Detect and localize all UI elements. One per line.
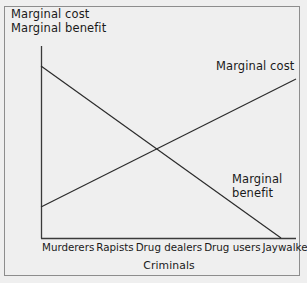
x-tick-label: Drug dealers bbox=[135, 241, 203, 253]
marginal-benefit-label-line-2: benefit bbox=[232, 186, 273, 200]
y-axis-title: Marginal costMarginal benefit bbox=[11, 8, 106, 35]
figure-canvas: Marginal costMarginal benefit Marginal c… bbox=[0, 0, 307, 283]
y-axis-title-line-2: Marginal benefit bbox=[11, 21, 106, 35]
marginal-cost-label-text: Marginal cost bbox=[216, 59, 294, 73]
marginal-benefit-label: Marginalbenefit bbox=[232, 173, 282, 200]
x-tick-label: Murderers bbox=[41, 241, 95, 253]
y-axis-title-line-1: Marginal cost bbox=[11, 7, 89, 21]
x-axis-title: Criminals bbox=[41, 259, 297, 272]
x-tick-label: Jaywalkers bbox=[262, 241, 308, 253]
marginal-benefit-label-line-1: Marginal bbox=[232, 172, 282, 186]
marginal-benefit-curve bbox=[41, 66, 281, 238]
x-tick-label: Rapists bbox=[95, 241, 134, 253]
marginal-cost-label: Marginal cost bbox=[216, 60, 294, 74]
x-axis-tick-labels: MurderersRapistsDrug dealersDrug usersJa… bbox=[41, 241, 297, 253]
x-tick-label: Drug users bbox=[203, 241, 261, 253]
